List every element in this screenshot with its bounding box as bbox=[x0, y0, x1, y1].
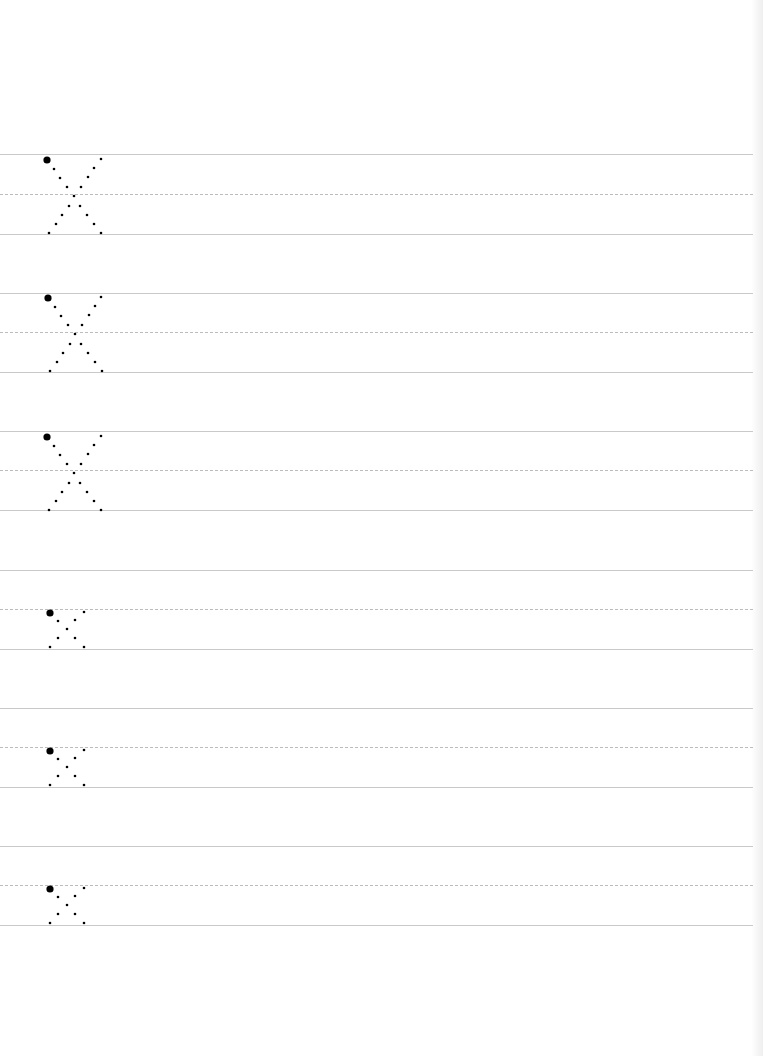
uppercase-x-trace-icon bbox=[0, 431, 120, 521]
start-dot-icon bbox=[43, 156, 50, 163]
uppercase-x-trace-icon bbox=[0, 154, 120, 244]
practice-row-6 bbox=[0, 846, 753, 927]
lowercase-x-trace-icon bbox=[0, 708, 120, 798]
lowercase-x-trace-icon bbox=[0, 846, 120, 936]
practice-row-2 bbox=[0, 293, 753, 374]
uppercase-x-trace-icon bbox=[0, 293, 120, 383]
practice-row-5 bbox=[0, 708, 753, 789]
start-dot-icon bbox=[43, 433, 50, 440]
practice-row-3 bbox=[0, 431, 753, 512]
practice-row-1 bbox=[0, 154, 753, 235]
start-dot-icon bbox=[46, 747, 53, 754]
lowercase-x-trace-icon bbox=[0, 570, 120, 660]
start-dot-icon bbox=[46, 609, 53, 616]
practice-row-4 bbox=[0, 570, 753, 651]
worksheet-page bbox=[0, 0, 763, 1056]
start-dot-icon bbox=[44, 294, 51, 301]
start-dot-icon bbox=[46, 885, 53, 892]
